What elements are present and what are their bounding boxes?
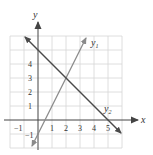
svg-text:−1: −1 [25, 131, 34, 140]
svg-text:3: 3 [78, 124, 82, 133]
x-axis-label: x [140, 114, 146, 125]
y-tick-labels: 4 3 2 1 −1 [25, 60, 34, 140]
y2-label: y2 [103, 103, 111, 115]
y1-label: y1 [90, 37, 98, 49]
svg-text:5: 5 [106, 124, 110, 133]
svg-text:2: 2 [64, 124, 68, 133]
line-y2 [25, 37, 121, 133]
y-axis-label: y [32, 9, 38, 20]
svg-text:4: 4 [92, 124, 96, 133]
coordinate-graph: x y −1 1 2 3 4 5 4 3 2 1 −1 y1 y2 [0, 0, 153, 155]
svg-text:3: 3 [28, 74, 32, 83]
svg-text:4: 4 [28, 60, 32, 69]
svg-text:1: 1 [28, 102, 32, 111]
svg-text:1: 1 [50, 124, 54, 133]
svg-text:−1: −1 [14, 124, 23, 133]
svg-text:2: 2 [28, 88, 32, 97]
